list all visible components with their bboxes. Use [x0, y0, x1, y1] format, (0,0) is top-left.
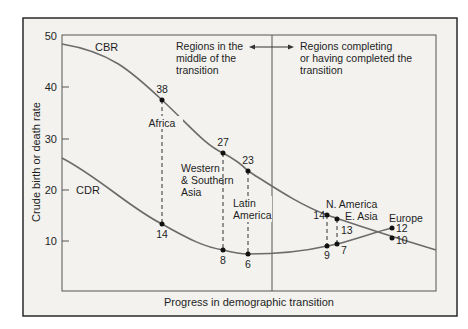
y-tick-40: 40 [45, 81, 57, 93]
svg-text:Western: Western [181, 162, 220, 174]
y-tick-20: 20 [45, 184, 57, 196]
africa-cbr-value: 38 [156, 83, 168, 95]
svg-text:9: 9 [324, 249, 330, 261]
svg-text:N. America: N. America [326, 198, 378, 210]
demographic-transition-chart: 50 40 30 20 10 Crude birth or death rate… [0, 0, 468, 329]
svg-text:transition: transition [176, 64, 219, 76]
svg-text:America: America [233, 209, 272, 221]
svg-text:27: 27 [217, 136, 229, 148]
y-tick-30: 30 [45, 133, 57, 145]
cbr-label: CBR [95, 41, 118, 53]
svg-text:Latin: Latin [233, 197, 256, 209]
svg-text:Europe: Europe [389, 212, 423, 224]
africa-cdr-value: 14 [156, 228, 168, 240]
africa-cdr-point [160, 222, 165, 227]
y-axis-label: Crude birth or death rate [30, 102, 42, 222]
svg-text:E. Asia: E. Asia [345, 210, 378, 222]
cdr-label: CDR [76, 184, 100, 196]
svg-text:10: 10 [396, 234, 408, 246]
svg-text:7: 7 [341, 244, 347, 256]
svg-text:Asia: Asia [181, 186, 202, 198]
africa-cbr-point [160, 98, 165, 103]
x-axis-label: Progress in demographic transition [164, 296, 334, 308]
svg-text:13: 13 [341, 224, 353, 236]
y-tick-50: 50 [45, 30, 57, 42]
svg-text:6: 6 [245, 258, 251, 270]
svg-text:transition: transition [300, 64, 343, 76]
svg-text:Regions in the: Regions in the [176, 40, 243, 52]
svg-text:Regions completing: Regions completing [300, 40, 392, 52]
svg-text:23: 23 [242, 154, 254, 166]
y-tick-10: 10 [45, 235, 57, 247]
africa-label: Africa [149, 117, 176, 129]
svg-text:middle of the: middle of the [176, 52, 236, 64]
svg-text:14: 14 [313, 209, 325, 221]
svg-text:& Southern: & Southern [181, 174, 234, 186]
svg-text:8: 8 [220, 254, 226, 266]
svg-text:or having completed the: or having completed the [300, 52, 412, 64]
